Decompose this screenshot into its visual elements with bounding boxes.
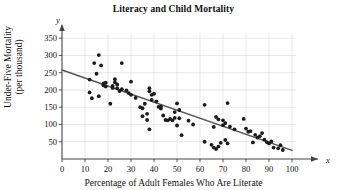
data-point: [97, 94, 101, 98]
data-point: [242, 117, 246, 121]
data-point: [217, 145, 221, 149]
x-tick-label: 50: [173, 164, 182, 174]
x-tick-label: 10: [81, 164, 90, 174]
data-point: [217, 117, 221, 121]
data-point: [154, 99, 158, 103]
data-point: [203, 103, 207, 107]
data-point: [108, 102, 112, 106]
data-point: [150, 98, 154, 102]
data-point: [145, 118, 149, 122]
y-axis-name: y: [55, 15, 60, 25]
data-point: [258, 134, 262, 138]
data-point: [219, 141, 223, 145]
data-point: [177, 108, 181, 112]
y-tick-label: 200: [44, 85, 57, 95]
data-point: [111, 84, 115, 88]
data-point: [141, 106, 145, 110]
data-point: [104, 81, 108, 85]
data-point: [148, 127, 152, 131]
data-point: [175, 124, 179, 128]
data-point: [90, 96, 94, 100]
data-point: [187, 119, 191, 123]
data-point: [226, 142, 230, 146]
data-point: [276, 146, 280, 150]
data-point: [115, 83, 119, 87]
data-point: [143, 102, 147, 106]
data-point: [104, 85, 108, 89]
data-point: [269, 139, 273, 143]
data-point: [173, 116, 177, 120]
data-point: [120, 61, 124, 65]
y-tick-label: 300: [44, 50, 57, 60]
data-point: [203, 140, 207, 144]
data-point: [244, 127, 248, 131]
data-point: [95, 72, 99, 76]
x-tick-label: 60: [196, 164, 205, 174]
data-point: [148, 89, 152, 93]
x-tick-label: 20: [104, 164, 113, 174]
chart-container: Literacy and Child Mortality Under-Five …: [0, 0, 347, 190]
x-tick-label: 100: [286, 164, 299, 174]
y-tick-label: 100: [44, 119, 57, 129]
data-point: [180, 133, 184, 137]
y-tick-label: 250: [44, 68, 57, 78]
data-point: [279, 143, 283, 147]
tick-labels: 0102030405060708090100501001502002503003…: [44, 33, 298, 174]
data-point: [152, 92, 156, 96]
y-tick-label: 150: [44, 102, 57, 112]
data-point: [223, 121, 227, 125]
x-tick-label: 30: [127, 164, 136, 174]
data-point: [88, 90, 92, 94]
data-point: [92, 61, 96, 65]
x-axis-name: x: [325, 155, 330, 165]
x-tick-label: 70: [219, 164, 228, 174]
x-tick-label: 0: [60, 164, 64, 174]
data-point: [251, 141, 255, 145]
data-point: [212, 125, 216, 129]
data-point: [228, 125, 232, 129]
data-point: [129, 93, 133, 97]
data-point: [129, 80, 133, 84]
data-point: [173, 110, 177, 114]
data-point: [161, 114, 165, 118]
scatter-plot: 0102030405060708090100501001502002503003…: [0, 0, 347, 190]
data-point: [272, 146, 276, 150]
data-point: [145, 112, 149, 116]
y-tick-label: 350: [44, 33, 57, 43]
x-tick-label: 80: [242, 164, 251, 174]
x-tick-label: 90: [265, 164, 274, 174]
data-point: [120, 87, 124, 91]
data-point: [88, 78, 92, 82]
y-tick-label: 50: [49, 137, 58, 147]
data-point: [249, 129, 253, 133]
data-point: [99, 64, 103, 68]
data-point: [175, 102, 179, 106]
data-point: [97, 53, 101, 57]
data-point: [134, 96, 138, 100]
data-point: [260, 131, 264, 135]
data-point: [223, 138, 227, 142]
data-point: [233, 127, 237, 131]
data-point: [226, 101, 230, 105]
data-point: [281, 148, 285, 152]
x-tick-label: 40: [150, 164, 159, 174]
tick-marks: [59, 38, 292, 162]
data-point: [141, 114, 145, 118]
data-point: [159, 105, 163, 109]
data-point: [191, 123, 195, 127]
data-point: [177, 116, 181, 120]
axes: [59, 24, 318, 162]
